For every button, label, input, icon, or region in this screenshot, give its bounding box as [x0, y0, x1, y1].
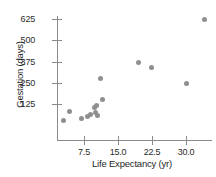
data-point	[184, 81, 189, 86]
y-axis-line	[57, 16, 58, 141]
data-point	[88, 112, 93, 117]
data-point	[61, 118, 66, 123]
x-tick-label: 30.0	[166, 148, 206, 157]
x-axis-title: Life Expectancy (yr)	[47, 158, 216, 169]
y-tick-mark	[52, 104, 62, 105]
data-point	[100, 97, 105, 102]
y-tick-mark	[52, 40, 62, 41]
data-point	[98, 76, 103, 81]
x-axis-line	[57, 140, 212, 141]
x-tick-mark	[152, 136, 153, 145]
y-tick-mark	[52, 19, 62, 20]
y-tick-mark	[52, 62, 62, 63]
data-point	[136, 60, 141, 65]
x-tick-mark	[118, 136, 119, 145]
y-axis-title: Gestation (days)	[14, 23, 25, 127]
data-point	[202, 17, 207, 22]
data-point	[95, 113, 100, 118]
x-tick-mark	[186, 136, 187, 145]
scatter-chart: 125250375500625 7.515.022.530.0 Gestatio…	[0, 0, 216, 177]
data-point	[79, 116, 84, 121]
y-tick-mark	[52, 83, 62, 84]
data-point	[94, 103, 99, 108]
data-point	[149, 65, 154, 70]
data-point	[67, 109, 72, 114]
x-tick-mark	[84, 136, 85, 145]
